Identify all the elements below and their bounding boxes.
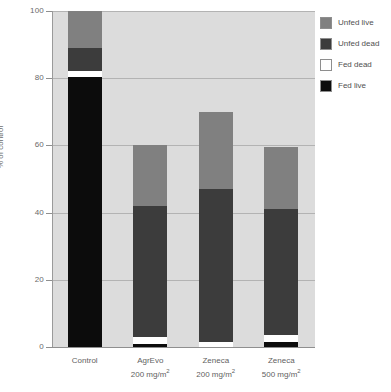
- y-tick-label-80: 80: [18, 73, 44, 82]
- y-tick-mark-20: [46, 280, 52, 281]
- legend-swatch-icon: [320, 59, 332, 71]
- bar-segment-fed-live: [264, 342, 298, 347]
- y-tick-mark-100: [46, 11, 52, 12]
- bar-segment-fed-dead: [133, 337, 167, 344]
- bar-stack: [199, 112, 233, 347]
- bar-segment-unfed-live: [264, 147, 298, 209]
- x-label-line1: AgrEvo: [137, 356, 163, 365]
- legend-swatch-icon: [320, 38, 332, 50]
- bar-segment-fed-dead: [199, 342, 233, 347]
- x-label-line1: Zeneca: [268, 356, 295, 365]
- chart-legend: Unfed liveUnfed deadFed deadFed live: [320, 12, 390, 96]
- stacked-bar-chart: 020406080100 % of control ControlAgrEvo2…: [0, 0, 391, 392]
- bar-stack: [68, 11, 102, 347]
- y-tick-mark-0: [46, 347, 52, 348]
- legend-swatch-icon: [320, 17, 332, 29]
- y-tick-mark-60: [46, 145, 52, 146]
- bar-zeneca-200-mg-m2[interactable]: [199, 11, 233, 347]
- bar-segment-unfed-live: [199, 112, 233, 189]
- x-axis-line: [52, 347, 315, 348]
- bar-zeneca-500-mg-m2[interactable]: [264, 11, 298, 347]
- legend-item-label: Fed live: [338, 81, 366, 90]
- y-tick-label-0: 0: [18, 342, 44, 351]
- x-label-line1: Control: [72, 356, 98, 365]
- bar-stack: [264, 147, 298, 347]
- bar-agrevo-200-mg-m2[interactable]: [133, 11, 167, 347]
- legend-item-unfed-dead[interactable]: Unfed dead: [320, 33, 390, 54]
- bar-segment-fed-live: [68, 77, 102, 347]
- bar-segment-fed-dead: [264, 335, 298, 342]
- bar-segment-unfed-dead: [68, 48, 102, 72]
- x-label-exponent: 2: [297, 368, 300, 374]
- y-tick-label-100: 100: [18, 6, 44, 15]
- bar-segment-unfed-dead: [199, 189, 233, 342]
- bar-stack: [133, 145, 167, 347]
- legend-swatch-icon: [320, 80, 332, 92]
- x-tick-label-3: Zeneca500 mg/m2: [234, 355, 328, 380]
- legend-item-label: Fed dead: [338, 60, 372, 69]
- legend-item-unfed-live[interactable]: Unfed live: [320, 12, 390, 33]
- legend-item-fed-live[interactable]: Fed live: [320, 75, 390, 96]
- y-axis-label: % of control: [0, 126, 5, 168]
- bar-control[interactable]: [68, 11, 102, 347]
- legend-item-label: Unfed live: [338, 18, 374, 27]
- x-label-line2: 500 mg/m2: [234, 366, 328, 380]
- y-tick-label-40: 40: [18, 208, 44, 217]
- x-label-line1: Zeneca: [202, 356, 229, 365]
- bar-segment-unfed-live: [133, 145, 167, 206]
- bar-segment-unfed-live: [68, 11, 102, 48]
- bar-segment-unfed-dead: [264, 209, 298, 335]
- y-tick-label-20: 20: [18, 275, 44, 284]
- legend-item-label: Unfed dead: [338, 39, 379, 48]
- y-tick-mark-80: [46, 78, 52, 79]
- legend-item-fed-dead[interactable]: Fed dead: [320, 54, 390, 75]
- bar-segment-unfed-dead: [133, 206, 167, 337]
- y-tick-label-60: 60: [18, 140, 44, 149]
- bar-segment-fed-live: [133, 344, 167, 347]
- y-tick-mark-40: [46, 213, 52, 214]
